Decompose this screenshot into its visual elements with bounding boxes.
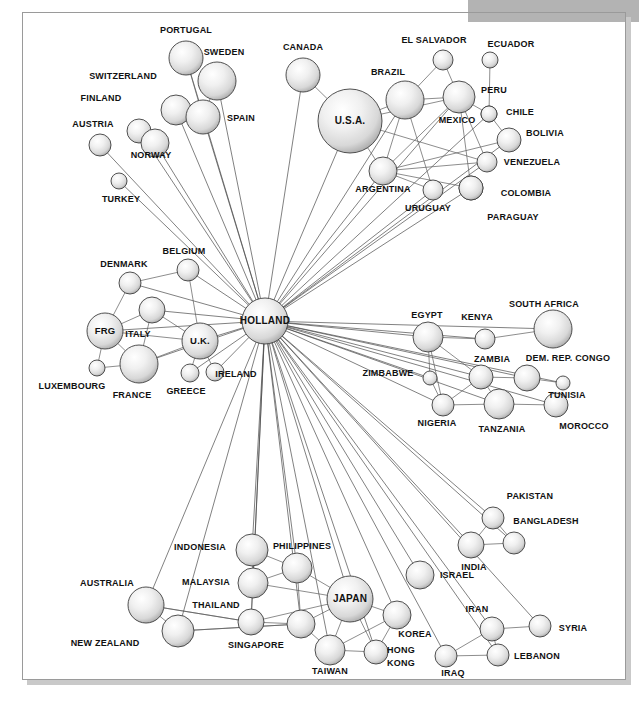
node-label-spain: SPAIN: [227, 113, 255, 123]
node-label-zimbabwe: ZIMBABWE: [362, 368, 413, 378]
node-uruguay[interactable]: [423, 180, 443, 200]
node-label-congo: DEM. REP. CONGO: [526, 353, 610, 363]
node-ecuador[interactable]: [482, 52, 498, 68]
node-label-sweden: SWEDEN: [204, 47, 245, 57]
node-label-elsalvador: EL SALVADOR: [401, 35, 467, 45]
node-thailand[interactable]: [238, 609, 264, 635]
node-malaysia[interactable]: [238, 568, 268, 598]
node-tunisia[interactable]: [556, 376, 570, 390]
node-label-brazil: BRAZIL: [371, 67, 405, 77]
node-label-bolivia: BOLIVIA: [526, 128, 564, 138]
node-tanzania[interactable]: [484, 389, 514, 419]
node-kenya[interactable]: [475, 329, 495, 349]
node-label-iraq: IRAQ: [441, 668, 464, 678]
node-label-hongkong: HONG: [387, 645, 415, 655]
edge-holland-austria: [100, 145, 265, 321]
node-label-newzealand: NEW ZEALAND: [71, 638, 140, 648]
node-label-uk: U.K.: [190, 335, 210, 346]
node-label-tunisia: TUNISIA: [548, 390, 586, 400]
node-turkey[interactable]: [111, 173, 127, 189]
network-graph: PORTUGALSWEDENSWITZERLANDSPAINFINLANDNOR…: [0, 0, 639, 701]
node-denmark[interactable]: [119, 272, 141, 294]
edge-holland-spain: [203, 117, 265, 321]
node-label-hongkong2: KONG: [387, 658, 415, 668]
node-egypt[interactable]: [413, 322, 443, 352]
node-venezuela[interactable]: [477, 152, 497, 172]
node-congo[interactable]: [514, 365, 540, 391]
node-newzealand[interactable]: [162, 615, 194, 647]
node-label-tanzania: TANZANIA: [479, 424, 526, 434]
node-colombia[interactable]: [459, 176, 483, 200]
node-zambia[interactable]: [469, 365, 493, 389]
node-label-morocco: MOROCCO: [559, 421, 608, 431]
node-canada[interactable]: [286, 58, 320, 92]
node-label-ireland: IRELAND: [215, 369, 257, 379]
node-label-venezuela: VENEZUELA: [504, 157, 561, 167]
node-label-greece: GREECE: [166, 386, 205, 396]
node-spain[interactable]: [186, 100, 220, 134]
node-label-peru: PERU: [481, 85, 507, 95]
node-elsalvador[interactable]: [433, 50, 453, 70]
node-bolivia[interactable]: [497, 128, 521, 152]
node-label-pakistan: PAKISTAN: [507, 491, 553, 501]
node-sweden[interactable]: [198, 62, 236, 100]
node-label-belgium: BELGIUM: [163, 246, 206, 256]
node-italy[interactable]: [139, 297, 165, 323]
node-zimbabwe[interactable]: [423, 371, 437, 385]
node-pakistan[interactable]: [482, 507, 504, 529]
node-label-holland: HOLLAND: [240, 315, 290, 326]
edge-holland-peru: [265, 114, 489, 321]
node-label-korea: KOREA: [398, 629, 432, 639]
node-hongkong[interactable]: [364, 640, 388, 664]
node-indonesia[interactable]: [236, 534, 268, 566]
node-label-austria: AUSTRIA: [72, 119, 114, 129]
node-luxembourg[interactable]: [89, 360, 105, 376]
node-label-israel: ISRAEL: [440, 570, 475, 580]
node-label-uruguay: URUGUAY: [405, 203, 451, 213]
node-syria[interactable]: [529, 615, 551, 637]
node-label-colombia: COLOMBIA: [501, 188, 552, 198]
diagram-stage: PORTUGALSWEDENSWITZERLANDSPAINFINLANDNOR…: [0, 0, 639, 701]
node-label-finland: FINLAND: [81, 93, 122, 103]
node-nigeria[interactable]: [432, 394, 454, 416]
node-label-mexico: MEXICO: [439, 115, 476, 125]
node-label-zambia: ZAMBIA: [474, 354, 510, 364]
node-australia[interactable]: [128, 587, 164, 623]
node-label-bangladesh: BANGLADESH: [513, 516, 579, 526]
node-korea[interactable]: [383, 601, 411, 629]
node-iran[interactable]: [480, 617, 504, 641]
node-label-indonesia: INDONESIA: [174, 542, 226, 552]
node-philippines[interactable]: [282, 553, 312, 583]
edge-holland-indonesia: [252, 321, 265, 550]
node-label-paraguay: PARAGUAY: [487, 212, 539, 222]
node-argentina[interactable]: [369, 157, 397, 185]
node-mexico[interactable]: [443, 81, 475, 113]
node-belgium[interactable]: [177, 259, 199, 281]
node-iraq[interactable]: [435, 645, 457, 667]
node-label-italy: ITALY: [125, 329, 151, 339]
node-label-switzerland: SWITZERLAND: [89, 71, 157, 81]
node-singapore[interactable]: [287, 610, 315, 638]
node-israel[interactable]: [406, 561, 434, 589]
node-greece[interactable]: [181, 364, 199, 382]
node-india[interactable]: [458, 532, 484, 558]
node-label-taiwan: TAIWAN: [312, 666, 348, 676]
node-label-france: FRANCE: [113, 390, 152, 400]
node-austria[interactable]: [89, 134, 111, 156]
node-bangladesh[interactable]: [503, 532, 525, 554]
node-label-japan: JAPAN: [333, 593, 367, 604]
node-label-denmark: DENMARK: [100, 259, 148, 269]
node-label-argentina: ARGENTINA: [355, 184, 411, 194]
node-portugal[interactable]: [169, 41, 203, 75]
node-label-norway: NORWAY: [131, 150, 172, 160]
node-label-luxembourg: LUXEMBOURG: [39, 381, 106, 391]
node-label-kenya: KENYA: [461, 312, 493, 322]
node-label-turkey: TURKEY: [102, 194, 140, 204]
node-lebanon[interactable]: [487, 644, 509, 666]
node-southafrica[interactable]: [534, 310, 572, 348]
node-france[interactable]: [120, 345, 158, 383]
node-taiwan[interactable]: [315, 635, 345, 665]
node-brazil[interactable]: [386, 81, 424, 119]
node-chile[interactable]: [481, 106, 497, 122]
node-label-chile: CHILE: [506, 107, 534, 117]
